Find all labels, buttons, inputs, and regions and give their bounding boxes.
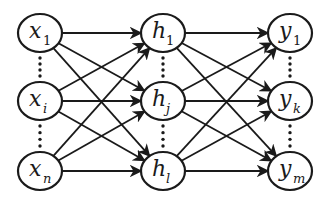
ellipsis-dot (161, 74, 164, 77)
node-subscript: n (43, 171, 51, 186)
ellipsis-dot (38, 56, 41, 59)
node-xi: xi (18, 82, 62, 120)
node-xn: xn (18, 152, 62, 190)
ellipsis-dot (288, 56, 291, 59)
ellipsis-dot (38, 68, 41, 71)
node-label: y (278, 156, 292, 181)
node-h1: h1 (141, 14, 185, 52)
node-label: h (152, 18, 166, 43)
node-yk: yk (268, 82, 312, 120)
ellipsis-dot (288, 68, 291, 71)
node-label: x (29, 156, 42, 181)
nodes: x1xixnh1hjhly1ykym (18, 14, 312, 190)
node-subscript: l (166, 171, 170, 186)
node-y1: y1 (268, 14, 312, 52)
node-subscript: 1 (43, 33, 51, 48)
node-subscript: m (293, 171, 305, 186)
ellipsis-dot (38, 74, 41, 77)
node-label: y (278, 86, 292, 111)
ellipsis-dot (288, 131, 291, 134)
node-label: h (152, 86, 166, 111)
ellipsis-dot (288, 124, 291, 127)
node-x1: x1 (18, 14, 62, 52)
node-label: h (152, 156, 166, 181)
ellipsis-dot (38, 138, 41, 141)
ellipsis-dot (161, 56, 164, 59)
node-hl: hl (141, 152, 185, 190)
ellipsis-dot (38, 144, 41, 147)
node-label: x (29, 86, 42, 111)
ellipsis-dot (288, 74, 291, 77)
node-subscript: k (293, 101, 301, 116)
ellipsis-dot (161, 138, 164, 141)
ellipsis-dot (161, 144, 164, 147)
node-ym: ym (268, 152, 312, 190)
node-label: y (278, 18, 292, 43)
ellipsis-dot (161, 68, 164, 71)
ellipsis-dot (288, 62, 291, 65)
node-subscript: i (43, 101, 47, 116)
ellipsis-dot (288, 138, 291, 141)
node-subscript: 1 (166, 33, 174, 48)
ellipsis-dot (38, 131, 41, 134)
ellipsis-dot (161, 62, 164, 65)
node-label: x (29, 18, 42, 43)
ellipsis-dot (38, 124, 41, 127)
ellipsis-dot (288, 144, 291, 147)
ellipsis-dot (161, 131, 164, 134)
node-subscript: 1 (293, 33, 301, 48)
ellipsis-dot (161, 124, 164, 127)
neural-network-diagram: x1xixnh1hjhly1ykym (0, 0, 330, 202)
ellipsis-dot (38, 62, 41, 65)
node-hj: hj (141, 82, 185, 120)
